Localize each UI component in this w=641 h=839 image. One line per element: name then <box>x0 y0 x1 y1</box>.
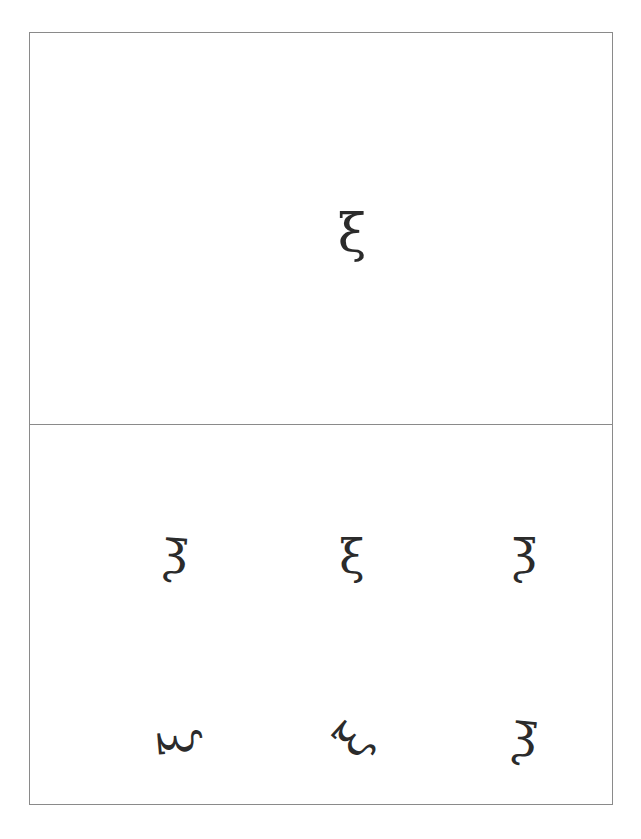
xi-glyph-reference: ξ <box>338 207 367 259</box>
reference-panel: ξ <box>30 33 612 425</box>
xi-glyph-variant-4: ξ <box>153 727 201 756</box>
xi-glyph-variant-1: ξ <box>161 533 189 581</box>
variants-panel: ξ ξ ξ ξ ξ ξ <box>30 425 612 805</box>
xi-glyph-variant-2: ξ <box>339 534 364 580</box>
xi-glyph-variant-3: ξ <box>511 534 536 580</box>
xi-glyph-variant-6: ξ <box>509 716 539 764</box>
figure-frame: ξ ξ ξ ξ ξ ξ ξ <box>29 32 613 805</box>
xi-glyph-variant-5: ξ <box>326 715 377 765</box>
